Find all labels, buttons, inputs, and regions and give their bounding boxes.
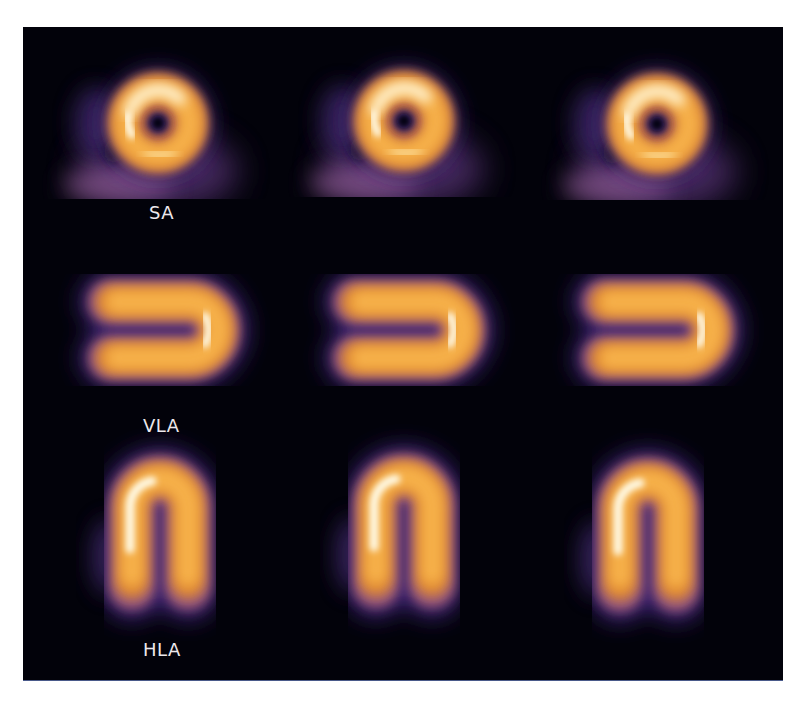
- row-label-vla: VLA: [143, 417, 180, 435]
- hla-slice-3: [580, 481, 678, 606]
- vla-slice-2: [340, 300, 463, 360]
- spect-images: [23, 27, 783, 680]
- hla-slice-2: [336, 477, 434, 602]
- sa-slice-2: [309, 67, 484, 209]
- hla-slice-1: [92, 479, 190, 604]
- sa-slice-3: [562, 70, 737, 212]
- sa-slice-1: [63, 69, 238, 211]
- row-label-hla: HLA: [143, 641, 181, 659]
- vla-slice-1: [95, 300, 218, 360]
- spect-image-panel: SA VLA HLA: [23, 27, 783, 681]
- vla-slice-3: [589, 300, 712, 360]
- row-label-sa: SA: [149, 204, 174, 222]
